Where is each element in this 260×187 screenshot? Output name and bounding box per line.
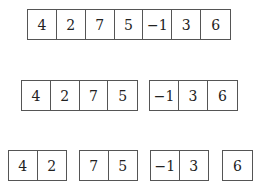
array-level-1-group-1: −1 3 6 — [149, 80, 238, 111]
array-cell: 2 — [38, 151, 66, 180]
array-cell: 2 — [51, 81, 80, 110]
array-level-2-group-1: 7 5 — [79, 150, 138, 181]
array-level-2-group-2: −1 3 — [150, 150, 209, 181]
array-cell: 5 — [115, 10, 144, 39]
array-cell: 5 — [108, 81, 137, 110]
array-cell: 4 — [28, 10, 57, 39]
array-cell: 2 — [57, 10, 86, 39]
array-cell: 7 — [86, 10, 115, 39]
array-cell: 6 — [223, 151, 252, 180]
array-cell: 3 — [180, 151, 208, 180]
array-cell: −1 — [150, 81, 179, 110]
array-cell: −1 — [143, 10, 172, 39]
array-cell: 6 — [208, 81, 237, 110]
array-cell: 5 — [109, 151, 137, 180]
array-cell: 4 — [9, 151, 38, 180]
array-level-2-group-3: 6 — [222, 150, 253, 181]
array-cell: 3 — [172, 10, 201, 39]
array-level-0-group-0: 4 2 7 5 −1 3 6 — [27, 9, 231, 40]
array-cell: 6 — [201, 10, 230, 39]
array-level-2-group-0: 4 2 — [8, 150, 67, 181]
array-level-1-group-0: 4 2 7 5 — [21, 80, 138, 111]
array-cell: 4 — [22, 81, 51, 110]
array-cell: 7 — [80, 151, 109, 180]
array-cell: 3 — [179, 81, 208, 110]
array-cell: −1 — [151, 151, 180, 180]
array-cell: 7 — [80, 81, 109, 110]
